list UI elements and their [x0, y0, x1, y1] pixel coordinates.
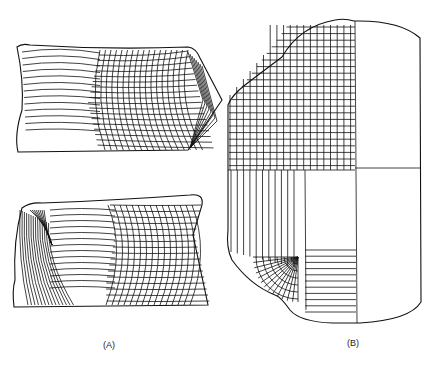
- panel-a-bottom-mesh: [13, 195, 209, 307]
- panel-a-top-mesh: [17, 44, 222, 152]
- panel-b-mesh: [228, 19, 422, 323]
- mesh-diagram: [0, 0, 437, 368]
- panel-a-label: (A): [103, 340, 115, 350]
- panel-b-label: (B): [347, 338, 359, 348]
